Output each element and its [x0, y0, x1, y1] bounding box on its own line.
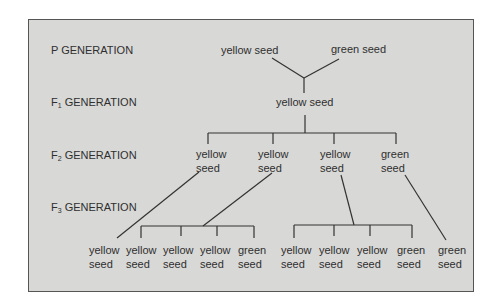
f3-item: yellowseed — [281, 243, 312, 271]
f1-yellow-seed: yellow seed — [276, 95, 333, 109]
f3-item: yellowseed — [357, 243, 388, 271]
f3-item: yellowseed — [126, 243, 157, 271]
f2-item: yellowseed — [258, 147, 289, 175]
f3-item: greenseed — [238, 243, 266, 271]
f3-item: greenseed — [397, 243, 425, 271]
f2-generation-label: F2 GENERATION — [51, 149, 137, 162]
f2-item: greenseed — [381, 147, 409, 175]
f3-item: greenseed — [438, 243, 466, 271]
p-generation-label: P GENERATION — [51, 44, 133, 56]
p-green-seed: green seed — [331, 42, 386, 56]
f3-item: yellowseed — [319, 243, 350, 271]
f2-item: yellowseed — [320, 147, 351, 175]
p-yellow-seed: yellow seed — [221, 43, 278, 57]
f1-generation-label: F1 GENERATION — [51, 96, 137, 109]
f3-item: yellowseed — [163, 243, 194, 271]
f3-item: yellowseed — [200, 243, 231, 271]
f3-generation-label: F3 GENERATION — [51, 201, 137, 214]
f3-item: yellowseed — [89, 243, 120, 271]
f2-item: yellowseed — [196, 147, 227, 175]
